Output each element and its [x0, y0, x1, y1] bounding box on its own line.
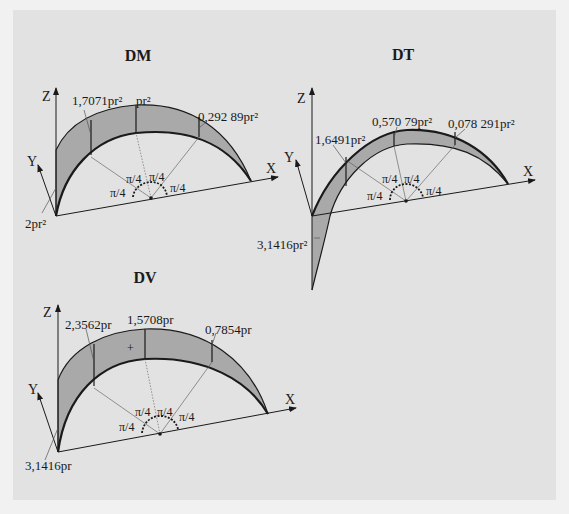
diagram-dv: DV + Z Y X π/4 π/4 π/4 π/4 2,3562pr 1,57… [25, 269, 296, 473]
center-point-dm [149, 196, 153, 200]
diagram-title-dv: DV [133, 269, 157, 286]
value-label-third-quarter-dv: 0,7854pr [205, 322, 252, 337]
z-axis-label-dm: Z [42, 89, 51, 104]
shear-band-dv [58, 329, 268, 452]
y-axis-label-dt: Y [284, 150, 294, 165]
x-axis-label-dv: X [285, 392, 295, 407]
angle-label-dm: π/4 [110, 186, 125, 200]
x-axis-label-dt: X [523, 164, 533, 179]
value-label-third-quarter-dm: 0,292 89pr² [198, 109, 258, 124]
value-label-origin-dt: 3,1416pr² [257, 237, 308, 252]
angle-label-dv: π/4 [119, 420, 134, 434]
inner-edge-dt [312, 144, 508, 290]
center-point-dv [158, 432, 162, 436]
value-label-origin-dm: 2pr² [25, 216, 46, 231]
center-point-dt [404, 199, 408, 203]
angle-label-dm: π/4 [149, 170, 164, 184]
y-axis-dt [296, 160, 312, 216]
value-label-origin-dv: 3,1416pr [25, 458, 72, 473]
diagram-canvas: DM Z Y X π/4 π/4 π/4 π/4 [0, 0, 569, 514]
angle-label-dt: π/4 [382, 172, 397, 186]
z-axis-label-dt: Z [297, 91, 306, 106]
x-axis-label-dm: X [266, 161, 276, 176]
plus-sign-dv: + [127, 341, 134, 355]
angle-label-dt: π/4 [367, 189, 382, 203]
value-label-top-dv: 1,5708pr [127, 312, 174, 327]
diagram-title-dt: DT [392, 46, 415, 63]
value-label-top-dt: 0,570 79pr² [372, 114, 432, 129]
angle-label-dm: π/4 [170, 181, 185, 195]
value-label-third-quarter-dt: 0,078 291pr² [448, 116, 515, 131]
diagram-title-dm: DM [125, 47, 152, 64]
leader-line-dt [333, 145, 346, 163]
y-axis-label-dv: Y [28, 382, 38, 397]
y-axis-dv [38, 393, 58, 452]
x-axis-dm [56, 177, 278, 216]
value-label-first-quarter-dt: 1,6491pr² [315, 132, 366, 147]
value-label-first-quarter-dv: 2,3562pr [65, 317, 112, 332]
x-axis-dv [58, 408, 296, 452]
value-label-first-quarter-dm: 1,7071pr² [72, 93, 123, 108]
angle-label-dv: π/4 [179, 410, 194, 424]
y-axis-dm [38, 165, 56, 216]
diagram-dm: DM Z Y X π/4 π/4 π/4 π/4 [25, 47, 278, 231]
angle-label-dt: π/4 [404, 172, 419, 186]
y-axis-label-dm: Y [27, 154, 37, 169]
angle-label-dt: π/4 [426, 184, 441, 198]
angle-label-dv: π/4 [157, 405, 172, 419]
angle-label-dm: π/4 [126, 172, 141, 186]
z-axis-label-dv: Z [43, 305, 52, 320]
diagram-dt: DT Z Y X π/4 π/4 π/4 π/4 [257, 46, 535, 290]
angle-arc-dt [390, 184, 423, 200]
angle-label-dv: π/4 [135, 405, 150, 419]
value-label-top-dm: pr² [136, 93, 151, 108]
